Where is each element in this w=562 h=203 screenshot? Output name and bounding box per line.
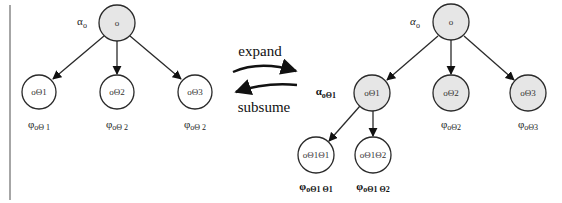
left-tree: o αo oΘ1 oΘ2 oΘ3 φoΘ 1 φoΘ 2 φoΘ 2 xyxy=(22,5,212,132)
phi-label-child3: φoΘ3 xyxy=(518,118,538,132)
phi-label-child2: φoΘ2 xyxy=(441,118,461,132)
phi-label-grandchild2: φoΘ1 Θ2 xyxy=(356,180,389,194)
node-text: o xyxy=(115,18,120,28)
alpha-label: αo xyxy=(77,15,87,30)
edge-root-child3 xyxy=(464,36,514,80)
diagram-canvas: o αo oΘ1 oΘ2 oΘ3 φoΘ 1 φoΘ 2 φoΘ 2 expan… xyxy=(0,0,562,203)
svg-text:oΘ1: oΘ1 xyxy=(31,87,47,97)
phi-label-2: φoΘ 2 xyxy=(106,118,128,132)
svg-text:oΘ1Θ2: oΘ1Θ2 xyxy=(360,150,387,160)
phi-label-1: φoΘ 1 xyxy=(28,118,50,132)
svg-text:oΘ3: oΘ3 xyxy=(187,87,203,97)
phi-label-grandchild1: φoΘ1 Θ1 xyxy=(299,180,332,194)
edge-root-child1 xyxy=(53,36,104,79)
right-root-node: o xyxy=(433,4,469,40)
alpha-label-child1: αoΘ1 xyxy=(316,85,336,100)
right-child-node-3: oΘ3 xyxy=(510,75,546,111)
edge-root-child1 xyxy=(387,36,438,80)
left-child-node-3: oΘ3 xyxy=(178,75,212,109)
phi-label-3: φoΘ 2 xyxy=(184,118,206,132)
expand-label: expand xyxy=(238,43,282,59)
svg-text:oΘ3: oΘ3 xyxy=(520,88,536,98)
right-child-node-1: oΘ1 xyxy=(354,75,390,111)
subsume-label: subsume xyxy=(238,99,291,115)
subsume-arrow xyxy=(236,84,297,92)
edge-child1-grandchild1 xyxy=(329,106,360,141)
left-child-node-2: oΘ2 xyxy=(100,75,134,109)
left-root-node: o xyxy=(99,5,135,41)
right-grandchild-node-1: oΘ1Θ1 xyxy=(298,137,334,173)
alpha-label: αo xyxy=(410,15,420,30)
right-tree: o αo oΘ1 αoΘ1 oΘ2 oΘ3 φoΘ2 φoΘ3 oΘ1Θ1 oΘ… xyxy=(298,4,546,194)
left-child-node-1: oΘ1 xyxy=(22,75,56,109)
svg-text:oΘ2: oΘ2 xyxy=(443,88,459,98)
svg-text:oΘ1: oΘ1 xyxy=(364,88,380,98)
edge-root-child3 xyxy=(130,36,181,79)
svg-text:o: o xyxy=(449,17,454,27)
svg-text:oΘ1Θ1: oΘ1Θ1 xyxy=(303,150,330,160)
svg-text:oΘ2: oΘ2 xyxy=(109,87,125,97)
right-child-node-2: oΘ2 xyxy=(433,75,469,111)
operations: expand subsume xyxy=(233,43,297,115)
right-grandchild-node-2: oΘ1Θ2 xyxy=(355,137,391,173)
expand-arrow xyxy=(233,66,296,72)
